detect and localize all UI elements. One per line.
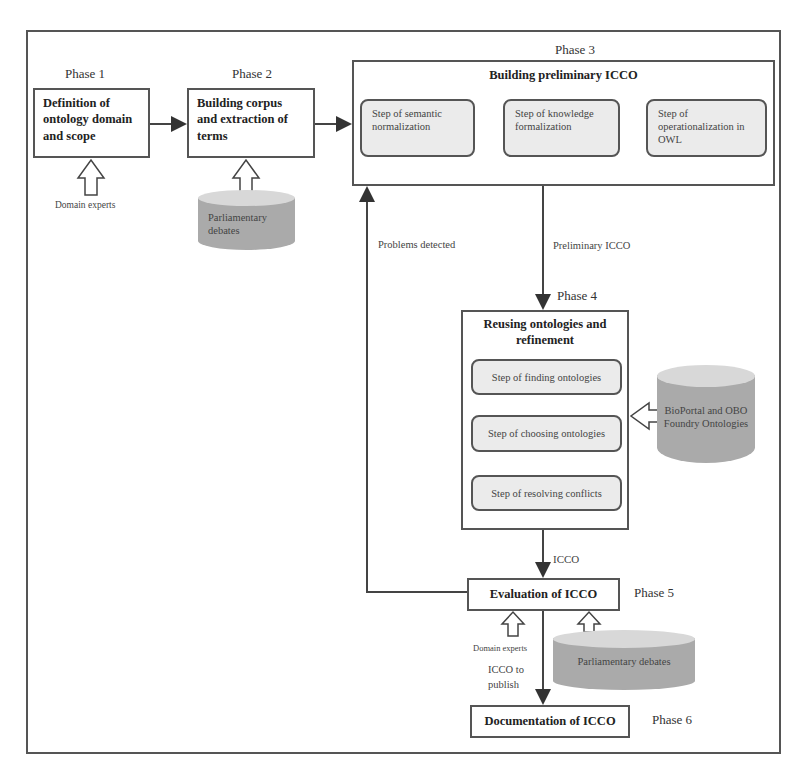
database-label: BioPortal and OBO Foundry Ontologies bbox=[657, 405, 755, 430]
phase-3-label: Phase 3 bbox=[555, 42, 595, 58]
database-label: Parliamentary debates bbox=[198, 212, 295, 237]
bioportal-obo-database: BioPortal and OBO Foundry Ontologies bbox=[657, 365, 755, 463]
phase-1-label: Phase 1 bbox=[65, 66, 105, 82]
phase-6-label: Phase 6 bbox=[652, 712, 692, 728]
phase-4-label: Phase 4 bbox=[557, 288, 597, 304]
phase-5-label: Phase 5 bbox=[634, 585, 674, 601]
step-knowledge-formalization: Step of knowledge formalization bbox=[503, 99, 620, 157]
step-finding-ontologies: Step of finding ontologies bbox=[471, 359, 622, 395]
step-operationalization-owl: Step of operationalization in OWL bbox=[646, 99, 767, 157]
parliamentary-debates-database-1: Parliamentary debates bbox=[198, 190, 295, 250]
phase-4-title: Reusing ontologies and refinement bbox=[463, 316, 627, 349]
phase-2-box: Building corpus and extraction of terms bbox=[187, 88, 315, 158]
parliamentary-debates-database-2: Parliamentary debates bbox=[553, 630, 695, 690]
step-semantic-normalization: Step of semantic normalization bbox=[360, 99, 475, 157]
phase-6-box: Documentation of ICCO bbox=[470, 705, 630, 738]
phase-5-experts-label: Domain experts bbox=[473, 643, 527, 653]
icco-to-publish-label: ICCO to publish bbox=[488, 663, 533, 692]
step-choosing-ontologies: Step of choosing ontologies bbox=[471, 415, 622, 452]
feedback-label: Problems detected bbox=[378, 239, 455, 250]
phase-3-title: Building preliminary ICCO bbox=[354, 68, 773, 83]
icco-label: ICCO bbox=[553, 553, 579, 565]
step-resolving-conflicts: Step of resolving conflicts bbox=[471, 475, 622, 511]
database-label: Parliamentary debates bbox=[553, 656, 695, 669]
phase-1-box: Definition of ontology domain and scope bbox=[33, 88, 150, 158]
phase-1-input-label: Domain experts bbox=[55, 200, 115, 210]
phase-2-label: Phase 2 bbox=[232, 66, 272, 82]
phase-5-box: Evaluation of ICCO bbox=[467, 578, 620, 611]
preliminary-icco-label: Preliminary ICCO bbox=[553, 240, 630, 251]
